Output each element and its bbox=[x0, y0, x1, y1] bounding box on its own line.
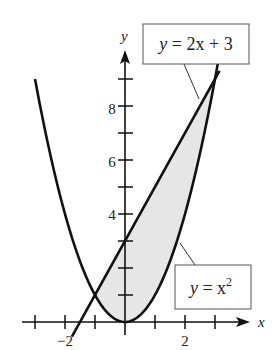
chart-canvas: −2 2 4 6 8 x y y = 2x + 3 y = x2 bbox=[0, 0, 279, 350]
x-axis-label: x bbox=[257, 314, 265, 330]
y-tick-label-4: 4 bbox=[108, 207, 116, 223]
y-tick-label-6: 6 bbox=[108, 154, 116, 170]
line-annotation-pointer bbox=[184, 64, 199, 99]
line-annotation-text: y = 2x + 3 bbox=[157, 34, 232, 54]
chart-figure: −2 2 4 6 8 x y y = 2x + 3 y = x2 bbox=[0, 0, 279, 350]
parabola-annotation-pointer bbox=[180, 243, 195, 265]
y-tick-label-8: 8 bbox=[108, 101, 116, 117]
y-axis-label: y bbox=[119, 28, 128, 44]
x-tick-label-neg2: −2 bbox=[57, 333, 73, 349]
parabola-annotation-text: y = x2 bbox=[188, 275, 232, 298]
x-tick-label-2: 2 bbox=[181, 333, 189, 349]
